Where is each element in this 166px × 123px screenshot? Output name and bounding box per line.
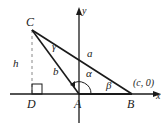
label-B: B xyxy=(127,97,135,111)
label-beta: β xyxy=(105,79,112,91)
side-a xyxy=(32,30,132,94)
label-y: y xyxy=(81,5,87,16)
label-gamma: γ xyxy=(52,40,57,52)
label-x: x xyxy=(155,90,161,101)
triangle-diagram: C y a γ h b α β (c, 0) x D A B xyxy=(0,0,166,123)
label-C: C xyxy=(26,15,35,29)
right-angle-marker xyxy=(32,84,42,94)
label-a: a xyxy=(87,47,93,59)
label-alpha: α xyxy=(86,67,92,79)
label-h: h xyxy=(13,57,19,69)
label-b: b xyxy=(53,65,59,77)
label-A: A xyxy=(73,97,82,111)
label-B-coord: (c, 0) xyxy=(133,77,155,89)
label-D: D xyxy=(26,97,36,111)
